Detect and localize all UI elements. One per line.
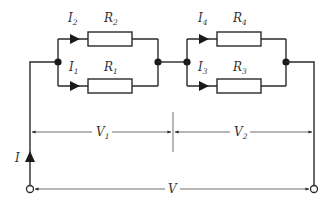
label-i3: I3 — [197, 60, 208, 76]
right-return-wire — [286, 62, 314, 185]
label-v2: V2 — [234, 125, 248, 141]
parallel-block-2: I4 R4 I3 R3 — [183, 11, 289, 93]
junction-dot — [183, 58, 190, 65]
current-arrow-i4 — [199, 34, 209, 44]
junction-dot — [54, 58, 61, 65]
terminal-left — [27, 186, 34, 193]
terminal-right — [311, 186, 318, 193]
resistor-r3 — [217, 79, 261, 93]
current-arrow-i2 — [70, 34, 80, 44]
voltage-dimension-total: V — [35, 182, 309, 196]
circuit-diagram: I2 R2 I1 R1 I4 R4 I3 R3 I V1 V2 — [0, 0, 328, 209]
resistor-r4 — [217, 32, 261, 46]
parallel-block-1: I2 R2 I1 R1 — [54, 11, 161, 93]
label-i2: I2 — [67, 11, 78, 27]
resistor-r1 — [88, 79, 132, 93]
resistor-r2 — [88, 32, 132, 46]
label-r4: R4 — [232, 11, 247, 27]
current-arrow-i3 — [199, 81, 209, 91]
total-current-arrow — [25, 151, 35, 162]
label-v1: V1 — [96, 125, 109, 141]
label-total-voltage: V — [168, 182, 178, 196]
label-r1: R1 — [103, 60, 118, 76]
label-r2: R2 — [103, 11, 118, 27]
label-i1: I1 — [68, 60, 79, 76]
label-r3: R3 — [232, 60, 247, 76]
label-i4: I4 — [197, 11, 208, 27]
voltage-dimension-v1-v2: V1 V2 — [32, 112, 312, 152]
current-arrow-i1 — [70, 81, 80, 91]
label-total-current: I — [14, 151, 20, 165]
left-feed-wire — [30, 62, 58, 185]
